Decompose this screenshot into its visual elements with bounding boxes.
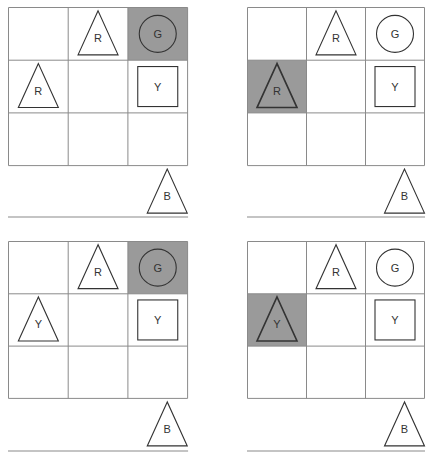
block-label: Y [154,314,162,326]
panel-bottom-right: RGYYB [247,241,426,455]
held-block: B [385,402,425,446]
grid-cell-item: Y [138,300,178,340]
block-label: Y [35,318,43,330]
grid-cell-item: R [78,11,118,55]
grid-cell-item: G [377,15,414,52]
block-label: R [273,85,281,97]
grid-cell-item: Y [18,297,58,341]
block-label: G [391,262,400,274]
grid-cell-item: R [78,245,118,289]
block-label: R [332,32,340,44]
held-block-label: B [164,190,171,202]
block-label: Y [154,81,162,93]
block-label: Y [391,81,399,93]
grid-cell-item: R [316,245,356,289]
grid-cell-item: R [316,11,356,55]
block-label: Y [273,318,281,330]
block-label: R [94,32,102,44]
grid-cell-item: Y [375,67,415,107]
grid-cell-item: Y [375,300,415,340]
block-label: G [153,262,162,274]
held-block: B [147,402,187,446]
held-block-label: B [164,423,171,435]
grid-cell-item: Y [138,67,178,107]
block-label: R [34,85,42,97]
block-label: Y [391,314,399,326]
held-block: B [147,169,187,213]
held-block-label: B [401,423,408,435]
block-label: R [332,266,340,278]
grid-cell-item: R [18,64,58,108]
held-block: B [385,169,425,213]
block-label: G [391,28,400,40]
block-label: R [94,266,102,278]
block-label: G [153,28,162,40]
panel-top-right: RGRYB [247,7,426,221]
panel-bottom-left: RGYYB [8,241,189,455]
held-block-label: B [401,190,408,202]
grid-cell-item: G [377,249,414,286]
panel-top-left: RGRYB [8,7,189,221]
